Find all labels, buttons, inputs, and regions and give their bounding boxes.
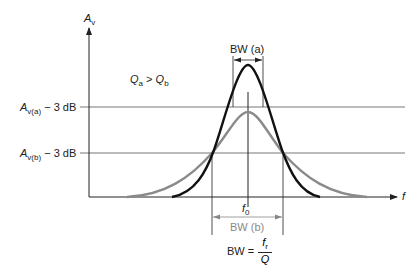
formula-lhs: BW = xyxy=(227,246,254,257)
bw-b-label: BW (b) xyxy=(230,222,264,233)
level-b-label: Av(b) − 3 dB xyxy=(20,148,76,162)
center-frequency-label: f0 xyxy=(242,203,250,217)
y-axis-label: Av xyxy=(84,13,95,27)
diagram-canvas xyxy=(0,0,419,273)
formula-fraction: fr Q xyxy=(258,237,272,265)
q-condition-label: Qa > Qb xyxy=(130,74,169,88)
bw-a-label: BW (a) xyxy=(230,44,264,55)
curve-high-q xyxy=(172,65,320,197)
curve-low-q xyxy=(127,112,367,197)
level-a-label: Av(a) − 3 dB xyxy=(20,102,76,116)
bandwidth-q-diagram: Av f Qa > Qb Av(a) − 3 dB Av(b) − 3 dB B… xyxy=(0,0,419,273)
x-axis-label: f xyxy=(402,191,405,202)
